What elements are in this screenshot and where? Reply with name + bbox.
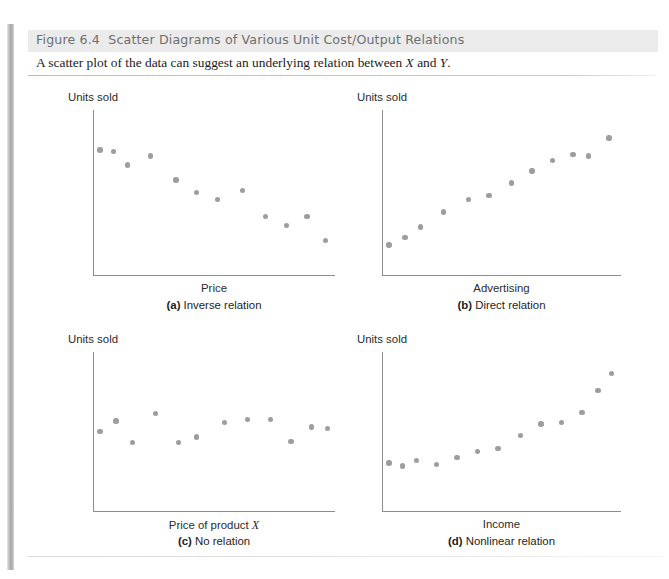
data-point [268, 417, 273, 422]
data-point [111, 149, 116, 154]
data-point [609, 371, 614, 376]
panel-b-x-axis-label: Advertising [382, 282, 621, 294]
header-divider [28, 75, 655, 76]
panel-d-y-axis-label: Units sold [357, 333, 407, 345]
panel-c-caption-tag: (c) [178, 535, 192, 547]
subtitle-var-x: X [406, 55, 414, 70]
data-point [434, 462, 439, 467]
data-point [288, 439, 293, 444]
data-point [518, 433, 523, 438]
data-point [130, 440, 135, 445]
data-point [570, 152, 575, 157]
data-point [595, 388, 600, 393]
data-point [402, 235, 407, 240]
data-point [194, 190, 199, 195]
book-gutter-shadow [7, 24, 14, 570]
panel-a-caption: (a) Inverse relation [93, 299, 335, 311]
data-point [386, 242, 391, 247]
data-point [309, 424, 314, 429]
scatter-panel-c: Units sold Price of product X (c) No rel… [93, 352, 336, 552]
data-point [418, 224, 423, 229]
data-point [529, 168, 534, 173]
panel-d-caption-tag: (d) [448, 535, 463, 547]
data-point [386, 460, 391, 465]
panel-c-x-axis-label-text: Price of product [169, 519, 252, 531]
panel-b-y-axis-label: Units sold [357, 91, 407, 103]
panel-b-caption-tag: (b) [458, 299, 473, 311]
panel-d-caption: (d) Nonlinear relation [382, 535, 621, 547]
data-point [466, 197, 471, 202]
panel-b-plot-area [382, 110, 621, 275]
data-point [304, 214, 309, 219]
panel-c-y-axis-label: Units sold [68, 333, 118, 345]
panel-a-plot-area [93, 110, 335, 275]
data-point [215, 197, 220, 202]
data-point [222, 420, 227, 425]
panel-a-caption-tag: (a) [167, 299, 181, 311]
subtitle-part-3: . [447, 55, 450, 70]
figure-title-text: Scatter Diagrams of Various Unit Cost/Ou… [108, 32, 464, 47]
subtitle-part-1: A scatter plot of the data can suggest a… [36, 55, 406, 70]
subtitle-part-2: and [414, 55, 440, 70]
data-point [97, 147, 102, 152]
data-point [454, 455, 459, 460]
data-point [263, 214, 268, 219]
data-point [579, 410, 584, 415]
data-point [148, 153, 153, 158]
data-point [153, 411, 158, 416]
panel-d-plot-area [382, 352, 621, 511]
data-point [125, 162, 130, 167]
panel-b-caption: (b) Direct relation [382, 299, 621, 311]
panel-c-x-axis-label-var: X [252, 518, 259, 532]
data-point [441, 209, 446, 214]
panel-c-caption-text: No relation [195, 535, 250, 547]
panel-c-caption: (c) No relation [93, 535, 335, 547]
data-point [538, 421, 543, 426]
data-point [509, 180, 514, 185]
figure-number: Figure 6.4 [36, 32, 100, 47]
panel-b-caption-text: Direct relation [475, 299, 545, 311]
panel-b-x-axis [382, 275, 621, 276]
data-point [550, 158, 555, 163]
data-point [325, 426, 330, 431]
data-point [486, 193, 491, 198]
scatter-panel-d: Units sold Income (d) Nonlinear relation [382, 352, 625, 552]
data-point [495, 446, 500, 451]
data-point [284, 223, 289, 228]
data-point [414, 458, 419, 463]
figure-title: Figure 6.4 Scatter Diagrams of Various U… [36, 32, 464, 47]
data-point [323, 238, 328, 243]
scatter-panel-b: Units sold Advertising (b) Direct relati… [382, 110, 625, 310]
panel-a-caption-text: Inverse relation [184, 299, 262, 311]
panel-a-x-axis-label: Price [93, 282, 335, 294]
data-point [194, 434, 199, 439]
panel-c-x-axis [93, 511, 335, 512]
data-point [97, 429, 102, 434]
panel-c-plot-area [93, 352, 335, 511]
figure-subtitle: A scatter plot of the data can suggest a… [36, 55, 451, 71]
data-point [559, 420, 564, 425]
data-point [606, 135, 611, 140]
scatter-panel-a: Units sold Price (a) Inverse relation [93, 110, 336, 310]
data-point [586, 153, 591, 158]
data-point [240, 188, 245, 193]
panel-c-x-axis-label: Price of product X [93, 518, 335, 533]
panel-a-y-axis-label: Units sold [68, 91, 118, 103]
panel-d-x-axis-label: Income [382, 518, 621, 530]
data-point [173, 177, 178, 182]
panel-d-caption-text: Nonlinear relation [466, 535, 555, 547]
data-point [245, 417, 250, 422]
data-point [176, 440, 181, 445]
panel-a-x-axis [93, 275, 335, 276]
data-point [400, 463, 405, 468]
data-point [113, 418, 118, 423]
data-point [475, 449, 480, 454]
panel-d-x-axis [382, 511, 621, 512]
